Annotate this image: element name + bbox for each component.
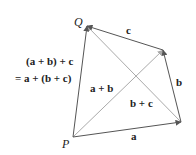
vector-c-label: c <box>126 24 131 36</box>
point-q-label: Q <box>74 15 83 29</box>
vector-b-plus-c-label: b + c <box>130 97 153 109</box>
sum-equation-line1: (a + b) + c <box>26 55 73 68</box>
vector-a <box>73 122 181 137</box>
vector-b-label: b <box>176 76 182 88</box>
vector-addition-diagram: Q P c b a a + b b + c (a + b) + c = a + … <box>0 0 196 155</box>
vector-sum <box>73 26 87 137</box>
vector-a-plus-b <box>73 50 163 137</box>
sum-equation-line2: = a + (b + c) <box>15 72 72 85</box>
vector-a-label: a <box>131 130 137 142</box>
point-p-label: P <box>61 137 70 151</box>
vector-a-plus-b-label: a + b <box>90 82 113 94</box>
